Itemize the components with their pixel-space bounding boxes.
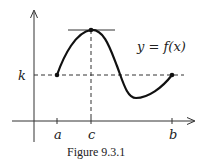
- point-c-max: [89, 28, 94, 33]
- label-a: a: [54, 128, 62, 141]
- x-axis: [12, 118, 195, 125]
- point-b: [170, 73, 175, 78]
- y-axis: [31, 10, 38, 142]
- label-c: c: [88, 128, 95, 141]
- point-a: [55, 73, 60, 78]
- function-label: y = f(x): [137, 40, 186, 53]
- figure-caption: Figure 9.3.1: [67, 146, 125, 158]
- label-k: k: [18, 69, 26, 82]
- label-b: b: [169, 128, 177, 141]
- figure-9-3-1: k a c b y = f(x) Figure 9.3.1: [0, 0, 205, 161]
